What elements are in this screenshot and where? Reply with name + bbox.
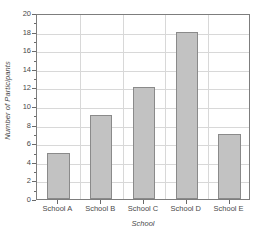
x-tick-label: School E [214, 205, 244, 213]
bar [90, 115, 112, 199]
bar [176, 32, 198, 199]
y-tick-label: 14 [23, 66, 31, 74]
gridline-vertical [208, 15, 209, 199]
bar [218, 134, 240, 199]
gridline-vertical [123, 15, 124, 199]
gridline-horizontal [37, 34, 249, 35]
y-tick-label: 18 [23, 29, 31, 37]
gridline-vertical [80, 15, 81, 199]
x-axis-title: School [36, 220, 250, 228]
x-tick-label: School D [171, 205, 201, 213]
x-tick-label: School B [85, 205, 115, 213]
gridline-vertical [165, 15, 166, 199]
y-axis-title-label: Number of Participants [3, 61, 12, 139]
y-tick-label: 16 [23, 47, 31, 55]
x-tick-label: School A [43, 205, 73, 213]
y-axis-title: Number of Participants [0, 0, 14, 200]
gridline-horizontal [37, 52, 249, 53]
y-tick-label: 20 [23, 10, 31, 18]
gridline-horizontal [37, 71, 249, 72]
bar [133, 87, 155, 199]
y-tick-label: 12 [23, 85, 31, 93]
plot-area [36, 14, 250, 200]
x-axis-tick-labels: School ASchool BSchool CSchool DSchool E [36, 205, 250, 219]
x-tick-label: School C [128, 205, 158, 213]
bar [47, 153, 69, 200]
bar-chart-figure: Number of Participants 02468101214161820… [0, 0, 266, 237]
y-tick-label: 10 [23, 103, 31, 111]
